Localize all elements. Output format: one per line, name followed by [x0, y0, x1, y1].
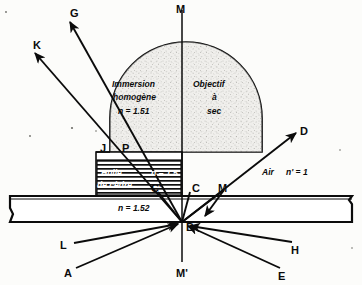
ray-A-to-B — [76, 224, 178, 268]
slide-index-label: n = 1.52 — [118, 204, 149, 213]
point-label-M2: M — [218, 183, 227, 194]
slide-label: Lame et lamelle — [22, 204, 85, 213]
cedar-oil-label-line2: de cèdre — [97, 181, 132, 190]
point-label-K: K — [33, 40, 41, 51]
cedar-oil-index-label: n = 1.5 — [151, 169, 178, 178]
point-label-P: P — [122, 143, 129, 154]
point-label-J: J — [100, 143, 106, 154]
air-index-label: n' = 1 — [286, 168, 308, 177]
point-label-H: H — [291, 245, 299, 256]
point-label-G: G — [70, 8, 79, 19]
immersion-index-label: n = 1.51 — [118, 107, 149, 116]
immersion-title-line2: homogène — [113, 93, 156, 102]
ray-diagram-canvas — [0, 0, 362, 285]
point-label-D: D — [300, 126, 308, 137]
immersion-title-line1: Immersion — [112, 80, 155, 89]
point-label-M: M — [176, 4, 185, 15]
point-label-Mp: M' — [176, 268, 188, 279]
air-label: Air — [262, 168, 274, 177]
ray-L-to-B — [74, 224, 178, 243]
point-label-Cp: C' — [151, 183, 162, 194]
incident-rays-group — [74, 224, 292, 268]
point-label-C: C — [192, 183, 200, 194]
point-label-B: B — [186, 222, 194, 233]
dry-objective-title-line1: Objectif — [193, 80, 225, 89]
point-label-A: A — [64, 268, 72, 279]
point-label-E: E — [278, 271, 285, 282]
dry-objective-title-line3: sec — [207, 107, 221, 116]
dry-objective-title-line2: à — [212, 93, 217, 102]
cedar-oil-label-line1: Huile — [101, 169, 122, 178]
optics-figure: Immersion homogène n = 1.51 Objectif à s… — [0, 0, 362, 285]
point-label-L: L — [60, 240, 67, 251]
